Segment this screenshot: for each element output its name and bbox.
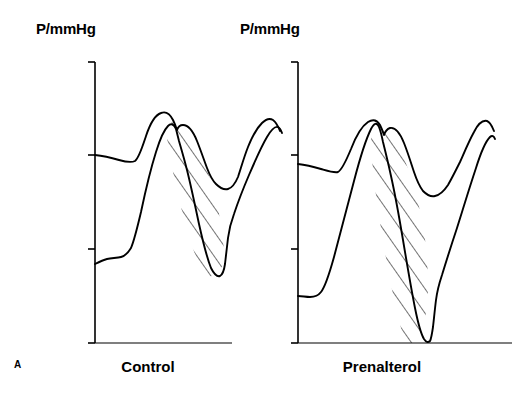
figure-container: A P/mmHg Control P/mmHg Prenalterol <box>0 0 524 406</box>
prenalterol-hatched-area <box>355 105 455 355</box>
waveform-svg-layer <box>0 0 524 406</box>
control-hatched-area <box>150 100 260 300</box>
